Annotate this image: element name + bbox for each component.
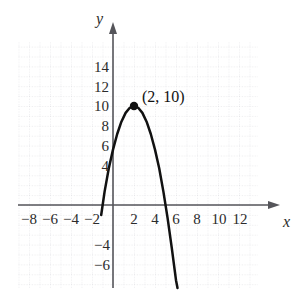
x-tick-label-2: 2 [130,212,138,227]
y-axis-label: y [96,11,103,27]
x-tick-label-10: 10 [212,212,227,227]
x-tick-label-6: 6 [172,212,180,227]
y-tick-label-6: 6 [102,139,110,154]
vertex-point-marker [130,102,138,110]
y-axis-arrowhead [109,22,117,34]
y-tick-label-8: 8 [102,119,110,134]
x-tick-label--8: −8 [21,212,37,227]
x-tick-label-8: 8 [193,212,201,227]
x-tick-label-4: 4 [151,212,159,227]
x-tick-label--2: −2 [84,212,100,227]
y-tick-label-4: 4 [102,159,110,174]
y-tick-label--6: −6 [94,258,110,273]
y-tick-label-12: 12 [94,80,109,95]
x-axis-label: x [283,214,290,230]
coordinate-plane [0,0,306,306]
x-axis-arrowhead [268,201,280,209]
y-tick-label-10: 10 [94,99,109,114]
y-tick-label--4: −4 [94,238,110,253]
x-tick-label--4: −4 [63,212,79,227]
grid-area [18,42,258,288]
x-tick-label--6: −6 [42,212,58,227]
vertex-annotation-label: (2, 10) [142,89,185,105]
graph-figure: −8 −6 −4 −2 2 4 6 8 10 12 14 12 10 8 6 4… [0,0,306,306]
x-tick-label-12: 12 [233,212,248,227]
y-tick-label-14: 14 [94,60,109,75]
